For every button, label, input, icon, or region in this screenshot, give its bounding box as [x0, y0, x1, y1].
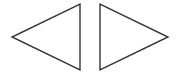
triangle-left-outline-icon — [0, 0, 88, 75]
triangle-right-outline-icon — [88, 0, 176, 75]
next-button[interactable]: Next — [88, 0, 176, 75]
previous-button[interactable]: Previous — [0, 0, 88, 75]
